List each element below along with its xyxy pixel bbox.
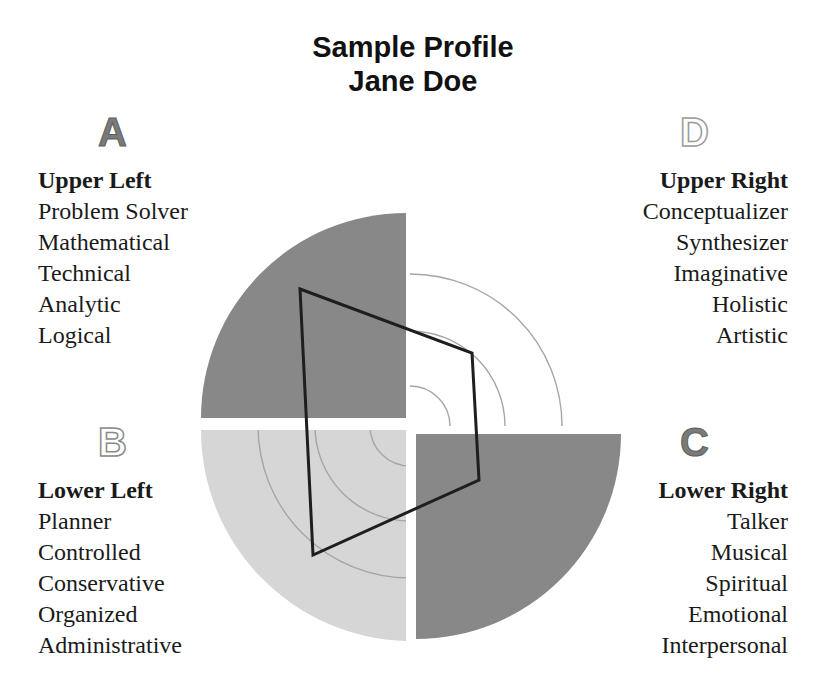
trait-item: Emotional — [658, 599, 788, 630]
trait-item: Conservative — [38, 568, 182, 599]
upper-right-heading: Upper Right — [643, 165, 788, 196]
trait-item: Technical — [38, 258, 188, 289]
quadrant-b-wedge — [201, 430, 406, 641]
trait-item: Talker — [658, 506, 788, 537]
trait-item: Spiritual — [658, 568, 788, 599]
trait-item: Holistic — [643, 289, 788, 320]
trait-item: Imaginative — [643, 258, 788, 289]
trait-item: Musical — [658, 537, 788, 568]
quadrant-letter-c: C — [680, 422, 709, 462]
trait-item: Interpersonal — [658, 630, 788, 661]
lower-left-heading: Lower Left — [38, 475, 182, 506]
quadrant-c-wedge — [416, 434, 621, 639]
trait-item: Planner — [38, 506, 182, 537]
upper-right-description: Upper Right Conceptualizer Synthesizer I… — [643, 165, 788, 351]
trait-item: Administrative — [38, 630, 182, 661]
quadrant-letter-a: A — [98, 112, 127, 152]
upper-left-description: Upper Left Problem Solver Mathematical T… — [38, 165, 188, 351]
lower-right-heading: Lower Right — [658, 475, 788, 506]
trait-item: Synthesizer — [643, 227, 788, 258]
quadrant-letter-d: D — [680, 112, 709, 152]
trait-item: Organized — [38, 599, 182, 630]
trait-item: Analytic — [38, 289, 188, 320]
quadrant-letter-b: B — [98, 422, 127, 462]
trait-item: Problem Solver — [38, 196, 188, 227]
trait-item: Controlled — [38, 537, 182, 568]
lower-left-description: Lower Left Planner Controlled Conservati… — [38, 475, 182, 661]
trait-item: Logical — [38, 320, 188, 351]
lower-right-description: Lower Right Talker Musical Spiritual Emo… — [658, 475, 788, 661]
upper-left-heading: Upper Left — [38, 165, 188, 196]
trait-item: Artistic — [643, 320, 788, 351]
trait-item: Mathematical — [38, 227, 188, 258]
trait-item: Conceptualizer — [643, 196, 788, 227]
